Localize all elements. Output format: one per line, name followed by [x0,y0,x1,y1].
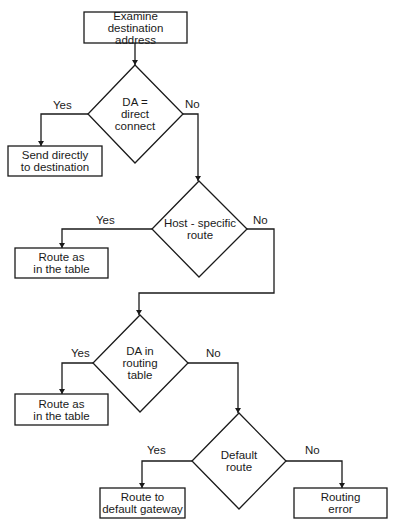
label-d2-no: No [253,214,268,226]
start-text: Examine destination address [84,12,187,43]
d4-line-1: Default [221,449,257,461]
label-d2-yes: Yes [96,214,115,226]
d2-text: Host - specific route [155,215,245,243]
p4-line-2: default gateway [102,503,183,515]
p2-text: Route as in the table [15,248,108,278]
edge-d4-yes [142,461,192,488]
label-d3-yes: Yes [71,347,90,359]
edge-d3-yes [62,363,93,394]
d1-line-2: direct [121,108,149,120]
p3-text: Route as in the table [15,394,108,425]
d3-line-1: DA in [126,345,154,357]
p5-text: Routing error [294,488,387,518]
p2-line-1: Route as [38,251,84,263]
p5-line-2: error [328,503,352,515]
d1-line-3: connect [115,120,155,132]
p3-line-1: Route as [38,398,84,410]
d3-line-2: routing [122,357,157,369]
d2-line-1: Host - specific [164,217,236,229]
d1-line-1: DA = [122,96,147,108]
d4-line-2: route [226,461,252,473]
d3-text: DA in routing table [105,343,175,383]
p1-line-2: to destination [21,161,89,173]
edge-d4-no [286,461,342,488]
edge-d3-no [188,363,238,413]
p5-line-1: Routing [321,491,361,503]
p4-text: Route to default gateway [100,488,185,518]
edge-d2-yes [62,229,152,248]
d2-line-2: route [187,229,213,241]
d4-text: Default route [204,447,274,475]
d3-line-3: table [128,369,153,381]
start-line-2: address [115,34,156,46]
p3-line-2: in the table [33,410,89,422]
d1-text: DA = direct connect [100,94,170,134]
p1-text: Send directly to destination [8,146,102,176]
p2-line-2: in the table [33,263,89,275]
edge-d1-yes [41,114,88,146]
p1-line-1: Send directly [22,149,88,161]
label-d1-yes: Yes [53,99,72,111]
label-d3-no: No [206,347,221,359]
label-d4-yes: Yes [147,444,166,456]
label-d1-no: No [185,98,200,110]
start-line-1: Examine destination [84,10,187,34]
edge-d1-no [183,114,198,181]
p4-line-1: Route to [121,491,164,503]
label-d4-no: No [305,444,320,456]
